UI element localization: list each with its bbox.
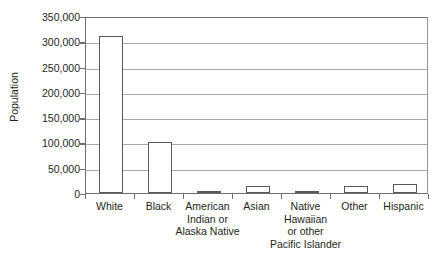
bar-black — [148, 142, 172, 193]
bar-hispanic — [393, 184, 417, 193]
y-axis-tick-mark — [80, 93, 85, 94]
y-tick-label: 350,000 — [22, 12, 80, 23]
y-axis-tick-mark — [80, 118, 85, 119]
population-bar-chart: Population 050,000100,000150,000200,0002… — [0, 0, 444, 265]
x-axis-tick-mark — [379, 194, 380, 199]
y-tick-label: 250,000 — [22, 62, 80, 73]
y-tick-label: 0 — [22, 189, 80, 200]
y-axis-tick-mark — [80, 169, 85, 170]
x-axis-label-line: Indian or — [166, 213, 249, 226]
x-axis-tick-mark — [85, 194, 86, 199]
y-axis-tick-mark — [80, 143, 85, 144]
x-axis-tick-mark — [330, 194, 331, 199]
bar-white — [99, 36, 123, 193]
x-axis-tick-mark — [183, 194, 184, 199]
x-axis-label: Hispanic — [362, 200, 444, 213]
bar-other — [344, 186, 368, 193]
bar-native-hawaiian-or-other-pacific-islander — [295, 191, 319, 193]
x-axis-tick-mark — [428, 194, 429, 199]
x-axis-label-line: Hispanic — [362, 200, 444, 213]
x-axis-label-line: Hawaiian — [264, 213, 347, 226]
x-axis-tick-mark — [134, 194, 135, 199]
x-axis-tick-mark — [281, 194, 282, 199]
bar-american-indian-or-alaska-native — [197, 191, 221, 193]
y-axis-tick-mark — [80, 17, 85, 18]
y-tick-label: 150,000 — [22, 113, 80, 124]
y-tick-label: 50,000 — [22, 163, 80, 174]
x-axis-category-labels: WhiteBlackAmericanIndian orAlaska Native… — [85, 200, 428, 262]
x-axis-label-line: Pacific Islander — [264, 238, 347, 251]
y-axis-tick-mark — [80, 68, 85, 69]
y-tick-label: 200,000 — [22, 88, 80, 99]
y-axis-title-label: Population — [8, 72, 20, 122]
plot-area — [85, 17, 428, 194]
x-axis-tick-mark — [232, 194, 233, 199]
y-tick-label: 100,000 — [22, 138, 80, 149]
x-axis-label-line: or other — [264, 225, 347, 238]
x-axis-label-line: Alaska Native — [166, 225, 249, 238]
y-tick-label: 300,000 — [22, 37, 80, 48]
y-axis-tick-mark — [80, 42, 85, 43]
bar-asian — [246, 186, 270, 193]
bars-layer — [86, 18, 427, 193]
y-axis-tick-labels: 050,000100,000150,000200,000250,000300,0… — [22, 17, 80, 194]
